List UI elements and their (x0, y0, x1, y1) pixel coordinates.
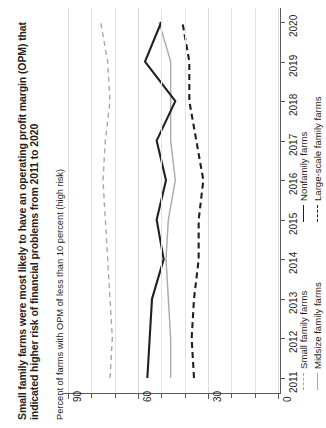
year-tick (280, 338, 285, 339)
year-tick-label: 2012 (288, 331, 299, 353)
chart-title-container: Small family farms were most likely to h… (16, 8, 46, 420)
gridline (208, 8, 209, 393)
year-axis-line (280, 8, 281, 394)
value-tick-label: 90 (72, 372, 83, 402)
value-tick (138, 393, 139, 399)
year-tick-label: 2015 (288, 213, 299, 235)
gridline (91, 8, 92, 393)
plot-area (62, 8, 280, 393)
year-tick-label: 2017 (288, 133, 299, 155)
value-tick (255, 393, 256, 398)
year-tick (280, 22, 285, 23)
legend-item-label: Large-scale family farms (312, 97, 323, 202)
year-tick-label: 2019 (288, 54, 299, 76)
year-tick-label: 2018 (288, 94, 299, 116)
gridline (68, 8, 69, 393)
legend-swatch-icon (312, 373, 322, 390)
series-canvas (62, 8, 280, 393)
legend-item-label: Small family farms (298, 291, 309, 369)
year-tick (280, 180, 285, 181)
series-line (101, 22, 113, 378)
legend-column-2: Nonfamily farmsLarge-scale family farms (296, 97, 324, 223)
legend-item[interactable]: Large-scale family farms (310, 97, 324, 223)
value-tick (231, 393, 232, 398)
gridline (278, 8, 279, 393)
legend-swatch-icon (298, 205, 308, 222)
value-tick (115, 393, 116, 398)
legend-swatch-icon (312, 205, 322, 222)
year-tick (280, 101, 285, 102)
year-tick (280, 141, 285, 142)
year-tick-label: 2014 (288, 252, 299, 274)
legend-item[interactable]: Midsize family farms (310, 282, 324, 390)
gridline (185, 8, 186, 393)
value-tick (185, 393, 186, 398)
gridline (115, 8, 116, 393)
value-tick (91, 393, 92, 398)
year-tick-label: 2016 (288, 173, 299, 195)
gridline (138, 8, 139, 393)
value-axis-line (62, 393, 280, 394)
legend-item-label: Nonfamily farms (298, 132, 309, 201)
gridline (231, 8, 232, 393)
year-tick (280, 62, 285, 63)
value-tick-label: 30 (212, 372, 223, 402)
legend-column-1: Small family farmsMidsize family farms (296, 282, 324, 390)
legend-swatch-icon (298, 373, 308, 390)
year-tick (280, 220, 285, 221)
year-tick-label: 2020 (288, 15, 299, 37)
year-tick-label: 2013 (288, 292, 299, 314)
value-tick (278, 393, 279, 399)
year-tick (280, 259, 285, 260)
page-title: Small family farms were most likely to h… (16, 8, 41, 420)
year-tick (280, 378, 285, 379)
gridline (161, 8, 162, 393)
gridline (255, 8, 256, 393)
value-tick-label: 60 (142, 372, 153, 402)
year-tick-label: 2011 (288, 371, 299, 393)
year-tick (280, 299, 285, 300)
legend: Small family farmsMidsize family farms N… (296, 60, 326, 390)
value-tick (68, 393, 69, 399)
value-tick (161, 393, 162, 398)
value-tick (208, 393, 209, 399)
legend-item-label: Midsize family farms (312, 282, 323, 369)
